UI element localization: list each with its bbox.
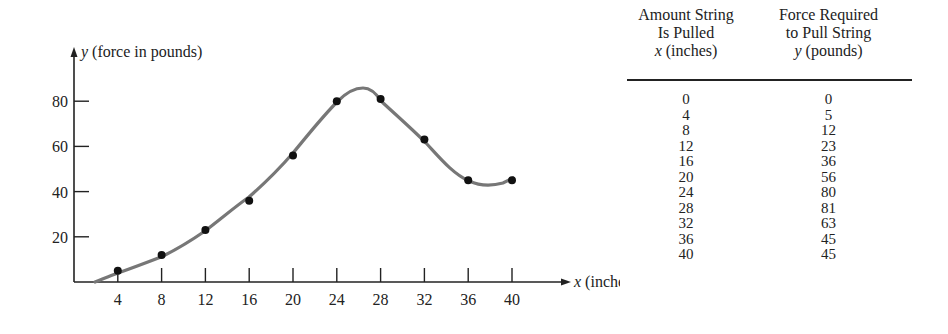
- data-table: Amount String Is Pulled x (inches) Force…: [627, 6, 912, 60]
- col1-header-line3: x (inches): [627, 42, 745, 60]
- cell-x: 0: [627, 92, 745, 108]
- col2-header-line3: y (pounds): [745, 42, 912, 60]
- table-row: 45: [627, 108, 912, 124]
- table-row: 2056: [627, 170, 912, 186]
- y-axis-arrow-icon: [71, 47, 78, 57]
- cell-x: 12: [627, 139, 745, 155]
- x-tick-label: 36: [460, 291, 476, 308]
- cell-y: 56: [745, 170, 912, 186]
- table-row: 2881: [627, 201, 912, 217]
- x-tick-label: 40: [504, 291, 520, 308]
- table-header: Amount String Is Pulled x (inches) Force…: [627, 6, 912, 60]
- cell-x: 4: [627, 108, 745, 124]
- col1-header: Amount String Is Pulled x (inches): [627, 6, 745, 60]
- table-row: 1223: [627, 139, 912, 155]
- x-tick-label: 4: [114, 291, 122, 308]
- cell-y: 45: [745, 232, 912, 248]
- x-tick-label: 8: [158, 291, 166, 308]
- data-point: [201, 226, 209, 234]
- y-tick-label: 80: [52, 93, 68, 110]
- col2-header: Force Required to Pull String y (pounds): [745, 6, 912, 60]
- cell-y: 12: [745, 123, 912, 139]
- data-point: [377, 95, 385, 103]
- y-tick-label: 40: [52, 184, 68, 201]
- cell-x: 40: [627, 247, 745, 263]
- table-row: 00: [627, 92, 912, 108]
- col2-header-line2: to Pull String: [745, 24, 912, 42]
- cell-y: 0: [745, 92, 912, 108]
- cell-y: 81: [745, 201, 912, 217]
- data-point: [289, 151, 297, 159]
- table-row: 2480: [627, 185, 912, 201]
- cell-x: 32: [627, 216, 745, 232]
- data-point: [158, 251, 166, 259]
- x-tick-label: 28: [373, 291, 389, 308]
- col2-header-line1: Force Required: [745, 6, 912, 24]
- header-rule: [627, 79, 912, 81]
- data-point: [508, 176, 516, 184]
- cell-x: 16: [627, 154, 745, 170]
- cell-y: 45: [745, 247, 912, 263]
- cell-x: 20: [627, 170, 745, 186]
- table-body: 004581212231636205624802881326336454045: [627, 92, 912, 263]
- col1-header-line1: Amount String: [627, 6, 745, 24]
- y-ticks: 20406080: [52, 93, 89, 246]
- data-points: [114, 95, 516, 275]
- table-row: 1636: [627, 154, 912, 170]
- cell-x: 8: [627, 123, 745, 139]
- x-tick-label: 32: [416, 291, 432, 308]
- x-axis-arrow-icon: [561, 279, 571, 286]
- x-axis-label: x (inches): [573, 273, 620, 291]
- cell-y: 63: [745, 216, 912, 232]
- cell-x: 24: [627, 185, 745, 201]
- y-tick-label: 60: [52, 138, 68, 155]
- table-row: 3645: [627, 232, 912, 248]
- cell-y: 36: [745, 154, 912, 170]
- table-row: 812: [627, 123, 912, 139]
- data-point: [464, 176, 472, 184]
- x-tick-label: 12: [197, 291, 213, 308]
- table-row: 3263: [627, 216, 912, 232]
- y-tick-label: 20: [52, 229, 68, 246]
- cell-x: 36: [627, 232, 745, 248]
- fitted-curve: [95, 88, 513, 282]
- data-point: [114, 267, 122, 275]
- cell-y: 5: [745, 108, 912, 124]
- x-ticks: 481216202428323640: [114, 268, 520, 308]
- data-point: [333, 97, 341, 105]
- x-tick-label: 16: [241, 291, 257, 308]
- data-point: [245, 197, 253, 205]
- x-tick-label: 20: [285, 291, 301, 308]
- data-point: [420, 136, 428, 144]
- table-row: 4045: [627, 247, 912, 263]
- x-tick-label: 24: [329, 291, 345, 308]
- col1-header-line2: Is Pulled: [627, 24, 745, 42]
- cell-x: 28: [627, 201, 745, 217]
- cell-y: 23: [745, 139, 912, 155]
- cell-y: 80: [745, 185, 912, 201]
- y-axis-label: y (force in pounds): [79, 43, 202, 61]
- force-chart: y (force in pounds) x (inches) 481216202…: [0, 0, 620, 334]
